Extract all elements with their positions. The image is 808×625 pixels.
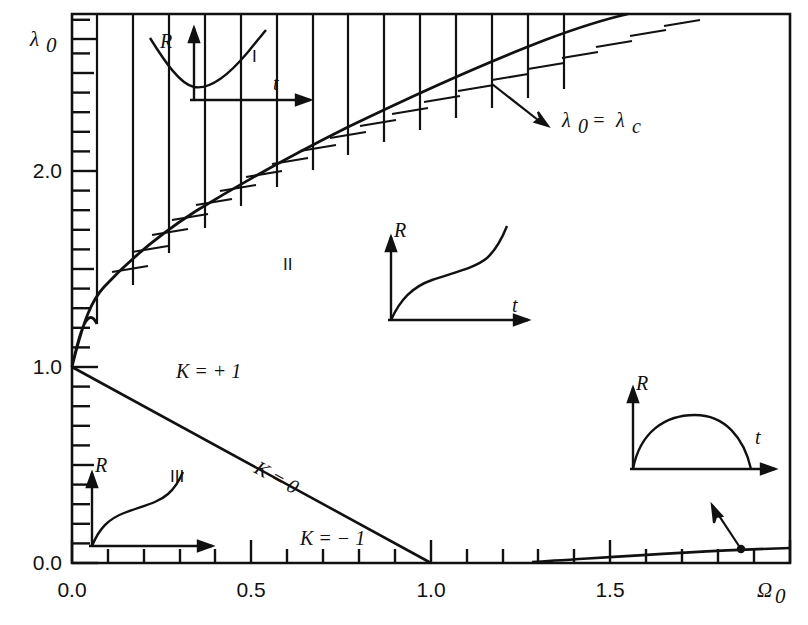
inset-I-t-label: t xyxy=(273,72,279,94)
y-axis-symbol: λ xyxy=(29,27,39,51)
inset-loitering-universe: R t xyxy=(386,219,528,325)
y-tick-label-1: 1.0 xyxy=(33,355,62,378)
x-axis-title: Ω 0 xyxy=(757,578,786,608)
lambda-c-label-eq: = xyxy=(592,109,606,131)
inset-III-r-label: R xyxy=(94,454,107,476)
inset-II-t-label: t xyxy=(512,294,518,316)
k-plus-one-label: K = + 1 xyxy=(175,360,241,382)
inset-II-r-label: R xyxy=(393,219,406,241)
lambda-c-callout-arrow xyxy=(492,84,548,126)
y-tick-label-0: 0.0 xyxy=(33,551,62,574)
x-tick-label-0: 0.0 xyxy=(57,578,86,601)
lambda-c-label-lhs-sub: 0 xyxy=(578,115,588,137)
inset-II-t-arrowhead xyxy=(514,315,528,325)
k-zero-label: K = 0 xyxy=(250,456,303,498)
inset-IV-curve xyxy=(633,415,751,469)
x-tick-label-1: 0.5 xyxy=(236,578,265,601)
recollapse-callout-arrow xyxy=(712,505,739,546)
k-zero-flat-line xyxy=(72,367,431,563)
inset-bouncing-universe: R t xyxy=(150,28,310,105)
k-minus-one-label: K = − 1 xyxy=(299,527,365,549)
inset-recollapsing-universe: R t xyxy=(628,372,775,474)
inset-IV-r-label: R xyxy=(635,372,648,394)
x-tick-label-3: 1.5 xyxy=(595,578,624,601)
inset-III-t-arrowhead xyxy=(198,541,212,551)
lambda-c-label-rhs: λ xyxy=(615,109,625,131)
region-label-one: I xyxy=(252,47,257,66)
omega-lambda-phase-diagram: 2.0 1.0 0.0 λ 0 0.0 0.5 1.0 1.5 Ω 0 xyxy=(0,0,808,625)
lambda-c-label-lhs: λ xyxy=(561,109,571,131)
inset-I-t-arrowhead xyxy=(296,95,310,105)
inset-II-curve xyxy=(391,226,507,320)
region-label-two: II xyxy=(283,255,292,274)
inset-ever-expanding-universe: R xyxy=(87,454,212,551)
inset-IV-t-label: t xyxy=(755,426,761,448)
y-axis-title: λ 0 xyxy=(29,27,57,57)
x-axis-subscript: 0 xyxy=(775,584,786,608)
inset-I-r-arrowhead xyxy=(189,28,199,42)
lambda-c-callout: λ 0 = λ c xyxy=(492,84,641,137)
x-axis-symbol: Ω xyxy=(757,578,772,602)
inset-IV-t-arrowhead xyxy=(761,464,775,474)
x-tick-label-2: 1.0 xyxy=(416,578,445,601)
recollapse-boundary-curve xyxy=(532,548,790,562)
inset-I-r-label: R xyxy=(159,30,172,52)
y-tick-label-2: 2.0 xyxy=(33,159,62,182)
lambda-c-label-rhs-sub: c xyxy=(632,115,641,137)
y-axis-subscript: 0 xyxy=(46,33,57,57)
phase-diagram-figure: 2.0 1.0 0.0 λ 0 0.0 0.5 1.0 1.5 Ω 0 xyxy=(0,0,808,625)
